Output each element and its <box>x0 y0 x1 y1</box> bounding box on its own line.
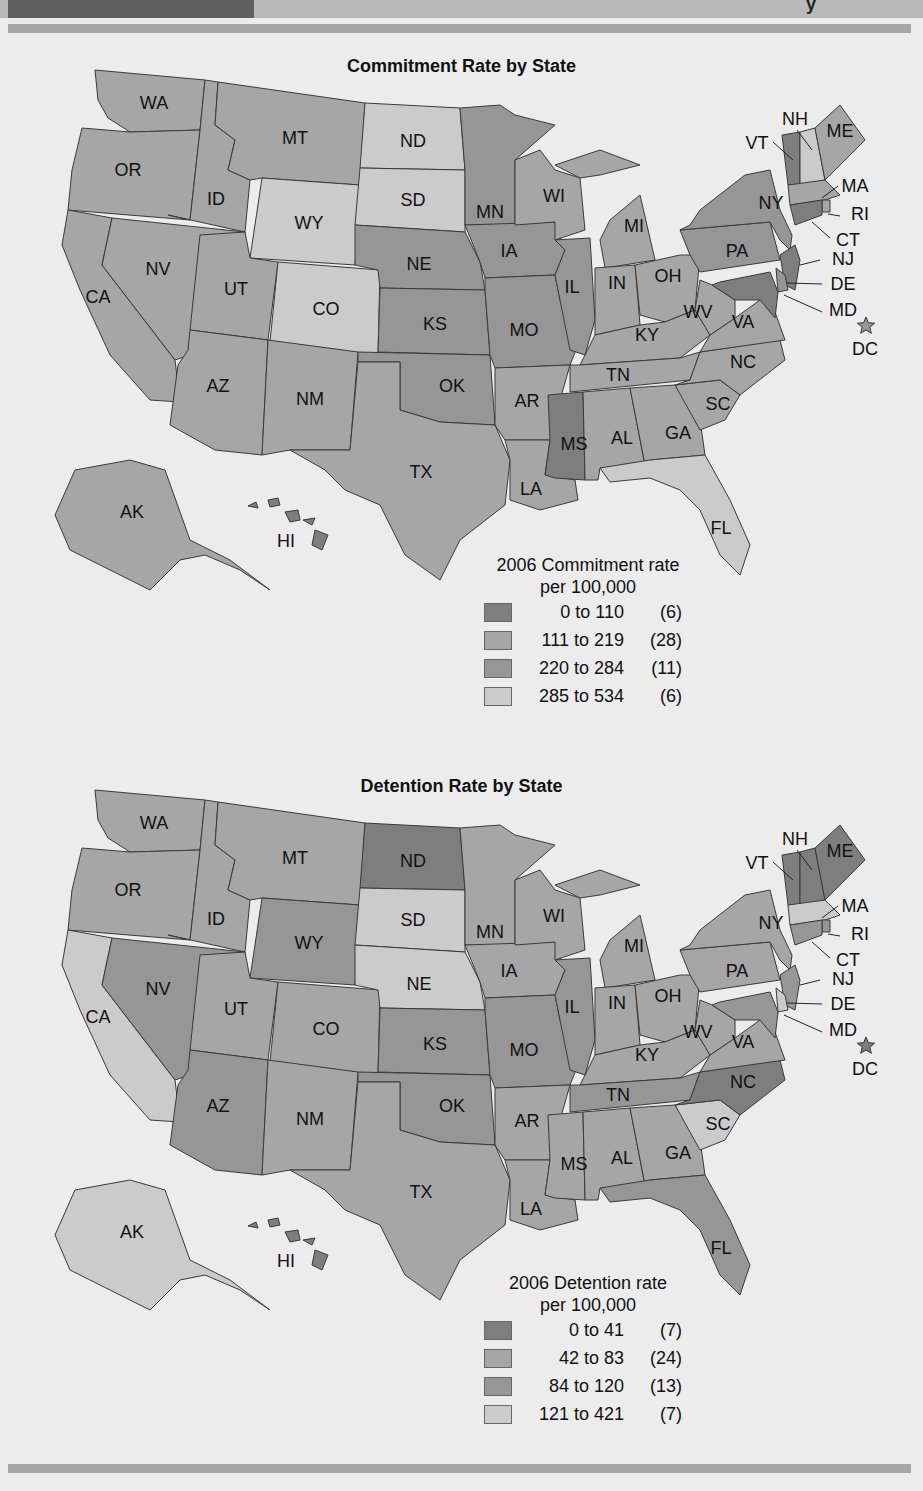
state-label-ca: CA <box>85 1007 110 1027</box>
state-label-mi: MI <box>624 216 644 236</box>
state-label-wa: WA <box>140 813 168 833</box>
state-label-nd: ND <box>400 131 426 151</box>
state-label-ms: MS <box>561 434 588 454</box>
state-ct <box>790 920 822 945</box>
state-label-sc: SC <box>705 1114 730 1134</box>
state-label-ok: OK <box>439 1096 465 1116</box>
state-label-oh: OH <box>655 266 682 286</box>
state-label-dc: DC <box>852 1059 878 1079</box>
state-ct <box>790 200 822 225</box>
state-label-hi: HI <box>277 531 295 551</box>
state-label-nj: NJ <box>832 969 854 989</box>
state-ri <box>822 920 830 932</box>
legend-swatch <box>484 1377 512 1396</box>
legend-item: 0 to 110(6) <box>478 598 698 626</box>
state-label-ms: MS <box>561 1154 588 1174</box>
state-label-va: VA <box>732 1032 755 1052</box>
legend-count: (11) <box>624 658 682 679</box>
legend-item: 84 to 120(13) <box>478 1372 698 1400</box>
state-label-ut: UT <box>224 999 248 1019</box>
legend-swatch <box>484 659 512 678</box>
legend-item: 220 to 284(11) <box>478 654 698 682</box>
legend-range: 0 to 41 <box>512 1320 624 1341</box>
state-label-nj: NJ <box>832 249 854 269</box>
legend-count: (13) <box>624 1376 682 1397</box>
legend-count: (7) <box>624 1320 682 1341</box>
state-label-ks: KS <box>423 1034 447 1054</box>
state-label-id: ID <box>207 909 225 929</box>
state-label-tx: TX <box>409 462 432 482</box>
state-label-co: CO <box>313 299 340 319</box>
state-label-nv: NV <box>145 979 170 999</box>
state-label-la: LA <box>520 479 542 499</box>
state-label-sd: SD <box>400 190 425 210</box>
legend-count: (28) <box>624 630 682 651</box>
legend-count: (7) <box>624 1404 682 1425</box>
state-label-wa: WA <box>140 93 168 113</box>
state-label-mo: MO <box>510 320 539 340</box>
state-label-ut: UT <box>224 279 248 299</box>
state-label-de: DE <box>830 994 855 1014</box>
state-label-co: CO <box>313 1019 340 1039</box>
state-label-de: DE <box>830 274 855 294</box>
state-label-ks: KS <box>423 314 447 334</box>
state-label-md: MD <box>829 300 857 320</box>
state-label-ia: IA <box>500 961 517 981</box>
dc-star-icon <box>857 1037 874 1053</box>
state-label-ia: IA <box>500 241 517 261</box>
state-label-oh: OH <box>655 986 682 1006</box>
state-label-mt: MT <box>282 128 308 148</box>
state-label-ky: KY <box>635 325 659 345</box>
state-label-in: IN <box>608 273 626 293</box>
legend-item: 42 to 83(24) <box>478 1344 698 1372</box>
state-label-ri: RI <box>851 924 869 944</box>
state-ak <box>55 1180 270 1310</box>
state-label-nc: NC <box>730 1072 756 1092</box>
state-label-ct: CT <box>836 950 860 970</box>
commitment-legend: 2006 Commitment rate per 100,000 0 to 11… <box>478 554 698 710</box>
state-label-sc: SC <box>705 394 730 414</box>
state-label-ar: AR <box>514 1111 539 1131</box>
legend-title: 2006 Commitment rate <box>478 554 698 576</box>
leader-line-ri <box>828 934 840 936</box>
state-label-wi: WI <box>543 186 565 206</box>
state-label-md: MD <box>829 1020 857 1040</box>
state-label-id: ID <box>207 189 225 209</box>
state-label-nc: NC <box>730 352 756 372</box>
state-ri <box>822 200 830 212</box>
state-label-ar: AR <box>514 391 539 411</box>
state-label-il: IL <box>564 277 579 297</box>
legend-range: 121 to 421 <box>512 1404 624 1425</box>
state-label-wi: WI <box>543 906 565 926</box>
legend-swatch <box>484 603 512 622</box>
dc-star-icon <box>857 317 874 333</box>
state-label-tn: TN <box>606 365 630 385</box>
state-label-ny: NY <box>758 913 783 933</box>
state-label-mo: MO <box>510 1040 539 1060</box>
leader-line-ri <box>828 214 840 216</box>
state-label-dc: DC <box>852 339 878 359</box>
state-label-ga: GA <box>665 1143 691 1163</box>
leader-line-md <box>784 295 822 312</box>
commitment-map: WAORCAIDNVMTWYUTCOAZNMNDSDNEKSOKTXMNIAMO… <box>0 0 923 740</box>
legend-swatch <box>484 687 512 706</box>
state-label-mt: MT <box>282 848 308 868</box>
state-label-va: VA <box>732 312 755 332</box>
state-label-wv: WV <box>684 1022 713 1042</box>
legend-item: 285 to 534(6) <box>478 682 698 710</box>
state-label-az: AZ <box>206 376 229 396</box>
state-label-pa: PA <box>726 241 749 261</box>
legend-count: (6) <box>624 602 682 623</box>
state-label-ak: AK <box>120 502 144 522</box>
state-label-wy: WY <box>295 213 324 233</box>
legend-item: 111 to 219(28) <box>478 626 698 654</box>
state-ak <box>55 460 270 590</box>
state-label-az: AZ <box>206 1096 229 1116</box>
state-label-ne: NE <box>406 974 431 994</box>
legend-count: (6) <box>624 686 682 707</box>
state-label-nm: NM <box>296 389 324 409</box>
state-label-wv: WV <box>684 302 713 322</box>
state-me <box>815 825 865 900</box>
leader-line-nj <box>800 260 820 265</box>
state-label-tn: TN <box>606 1085 630 1105</box>
